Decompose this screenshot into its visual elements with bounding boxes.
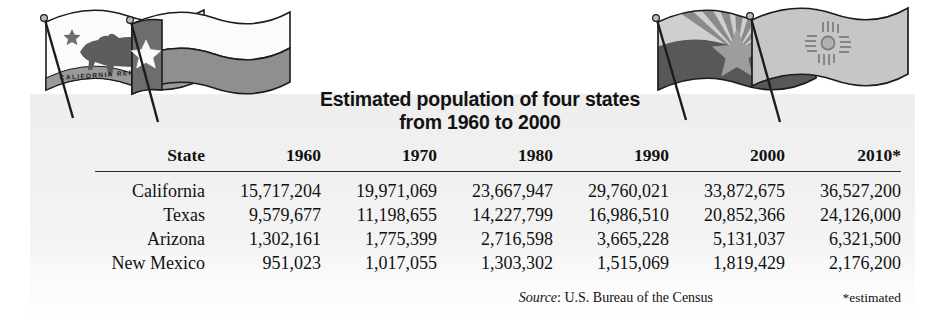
population-table: State 1960 1970 1980 1990 2000 2010* Cal… [95, 145, 901, 276]
right-flags-svg [640, 0, 930, 140]
cell-texas-2010: 24,126,000 [785, 204, 901, 228]
cell-new-mexico-1960: 951,023 [205, 252, 321, 276]
chart-title: Estimated population of four states from… [292, 88, 668, 134]
column-header-1980: 1980 [437, 145, 553, 172]
table-header-row: State 1960 1970 1980 1990 2000 2010* [95, 145, 901, 172]
table-footer: Source: U.S. Bureau of the Census *estim… [95, 290, 901, 310]
cell-texas-1980: 14,227,799 [437, 204, 553, 228]
source-note: Source: U.S. Bureau of the Census [519, 290, 713, 306]
chart-title-line-1: Estimated population of four states [292, 88, 668, 111]
cell-texas-2000: 20,852,366 [669, 204, 785, 228]
source-label: Source [519, 290, 557, 305]
table-row: New Mexico 951,023 1,017,055 1,303,302 1… [95, 252, 901, 276]
column-header-1970: 1970 [321, 145, 437, 172]
column-header-2010: 2010* [785, 145, 901, 172]
column-header-state: State [95, 145, 205, 172]
cell-california-2000: 33,872,675 [669, 172, 785, 204]
chart-title-line-2: from 1960 to 2000 [292, 111, 668, 134]
cell-new-mexico-1970: 1,017,055 [321, 252, 437, 276]
row-label-new-mexico: New Mexico [95, 252, 205, 276]
cell-arizona-1990: 3,665,228 [553, 228, 669, 252]
table-row: Arizona 1,302,161 1,775,399 2,716,598 3,… [95, 228, 901, 252]
arizona-pole-finial [653, 15, 660, 22]
cell-arizona-1980: 2,716,598 [437, 228, 553, 252]
cell-texas-1990: 16,986,510 [553, 204, 669, 228]
population-table-wrapper: State 1960 1970 1980 1990 2000 2010* Cal… [95, 145, 901, 276]
table-row: Texas 9,579,677 11,198,655 14,227,799 16… [95, 204, 901, 228]
source-text: U.S. Bureau of the Census [564, 290, 713, 305]
cell-new-mexico-1990: 1,515,069 [553, 252, 669, 276]
column-header-2000: 2000 [669, 145, 785, 172]
cell-new-mexico-1980: 1,303,302 [437, 252, 553, 276]
texas-pole-finial [127, 17, 134, 24]
cell-california-1980: 23,667,947 [437, 172, 553, 204]
new-mexico-pole-finial [747, 13, 754, 20]
texas-flag [127, 12, 290, 122]
cell-new-mexico-2010: 2,176,200 [785, 252, 901, 276]
row-label-texas: Texas [95, 204, 205, 228]
row-label-arizona: Arizona [95, 228, 205, 252]
cell-california-1970: 19,971,069 [321, 172, 437, 204]
cell-california-1960: 15,717,204 [205, 172, 321, 204]
estimated-note: *estimated [843, 290, 901, 306]
row-label-california: California [95, 172, 205, 204]
table-row: California 15,717,204 19,971,069 23,667,… [95, 172, 901, 204]
california-pole-finial [41, 15, 48, 22]
cell-arizona-1960: 1,302,161 [205, 228, 321, 252]
cell-texas-1970: 11,198,655 [321, 204, 437, 228]
cell-new-mexico-2000: 1,819,429 [669, 252, 785, 276]
column-header-1960: 1960 [205, 145, 321, 172]
cell-california-1990: 29,760,021 [553, 172, 669, 204]
left-flags-svg: CALIFORNIA REPUBLIC [28, 0, 328, 140]
cell-arizona-2010: 6,321,500 [785, 228, 901, 252]
new-mexico-flag [745, 0, 920, 122]
cell-california-2010: 36,527,200 [785, 172, 901, 204]
right-flag-group [640, 0, 930, 140]
cell-arizona-2000: 5,131,037 [669, 228, 785, 252]
cell-texas-1960: 9,579,677 [205, 204, 321, 228]
column-header-1990: 1990 [553, 145, 669, 172]
cell-arizona-1970: 1,775,399 [321, 228, 437, 252]
left-flag-group: CALIFORNIA REPUBLIC [28, 0, 328, 140]
